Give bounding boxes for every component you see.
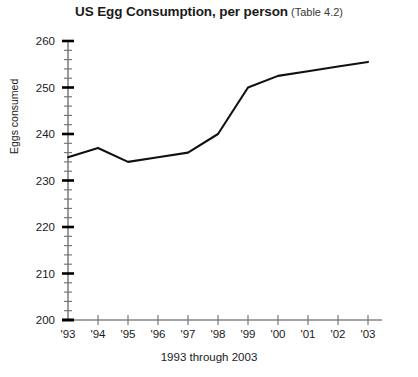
- x-tick-label: '02: [331, 328, 346, 340]
- chart-svg: 200210220230240250260 '93'94'95'96'97'98…: [0, 0, 418, 377]
- y-tick-label: 210: [36, 268, 55, 280]
- x-tick-label: '96: [151, 328, 166, 340]
- x-tick-label: '98: [211, 328, 226, 340]
- x-tick-label: '99: [241, 328, 256, 340]
- x-tick-label: '03: [361, 328, 376, 340]
- y-tick-label: 260: [36, 35, 55, 47]
- series-line-eggs-consumed: [68, 62, 368, 162]
- x-tick-label: '97: [181, 328, 196, 340]
- data-series: [68, 62, 368, 162]
- x-tick-label: '93: [61, 328, 76, 340]
- y-tick-label: 220: [36, 221, 55, 233]
- y-tick-label: 250: [36, 82, 55, 94]
- x-tick-label: '00: [271, 328, 286, 340]
- y-tick-label: 230: [36, 175, 55, 187]
- y-tick-label: 200: [36, 314, 55, 326]
- x-tick-label: '94: [91, 328, 107, 340]
- x-tick-label: '95: [121, 328, 136, 340]
- y-axis: 200210220230240250260: [36, 35, 74, 326]
- y-tick-label: 240: [36, 128, 55, 140]
- chart-container: US Egg Consumption, per person(Table 4.2…: [0, 0, 418, 377]
- x-tick-label: '01: [301, 328, 316, 340]
- x-axis: '93'94'95'96'97'98'99'00'01'02'03: [61, 315, 383, 340]
